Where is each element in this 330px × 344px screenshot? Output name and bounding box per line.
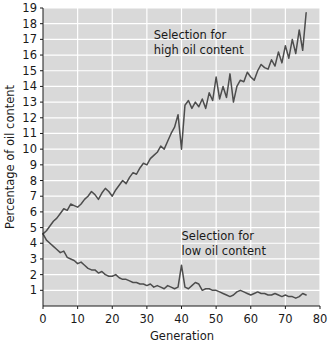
oil-content-selection-chart: 12345678910111213141516171819 0102030405… bbox=[0, 0, 330, 344]
annotation-line-2: low oil content bbox=[182, 244, 267, 258]
y-tick-label: 18 bbox=[22, 17, 37, 31]
annotation-line-1: Selection for bbox=[182, 229, 255, 243]
y-tick-label: 11 bbox=[22, 126, 37, 140]
x-tick-label: 80 bbox=[313, 312, 328, 326]
annotation-line-1: Selection for bbox=[154, 28, 227, 42]
y-tick-label: 4 bbox=[30, 236, 37, 250]
x-axis-title: Generation bbox=[150, 329, 214, 343]
y-tick-label: 6 bbox=[30, 205, 37, 219]
y-tick-label: 1 bbox=[30, 283, 37, 297]
y-tick-label: 7 bbox=[30, 189, 37, 203]
y-tick-label: 15 bbox=[22, 64, 37, 78]
x-tick-label: 60 bbox=[243, 312, 258, 326]
chart-canvas: 12345678910111213141516171819 0102030405… bbox=[0, 0, 330, 344]
y-tick-label: 8 bbox=[30, 174, 37, 188]
x-tick-label: 30 bbox=[140, 312, 155, 326]
x-tick-label: 70 bbox=[278, 312, 293, 326]
x-tick-label: 40 bbox=[174, 312, 189, 326]
annotation-line-2: high oil content bbox=[154, 43, 244, 57]
y-tick-label: 10 bbox=[22, 142, 37, 156]
y-tick-label: 5 bbox=[30, 221, 37, 235]
x-tick-label: 0 bbox=[39, 312, 46, 326]
y-tick-label: 3 bbox=[30, 252, 37, 266]
y-tick-label: 17 bbox=[22, 32, 37, 46]
x-tick-label: 50 bbox=[209, 312, 224, 326]
y-tick-label: 13 bbox=[22, 95, 37, 109]
y-tick-label: 16 bbox=[22, 48, 37, 62]
y-axis-title: Percentage of oil content bbox=[3, 84, 17, 229]
x-tick-label: 20 bbox=[105, 312, 120, 326]
y-tick-label: 9 bbox=[30, 158, 37, 172]
x-tick-label: 10 bbox=[70, 312, 85, 326]
y-tick-label: 19 bbox=[22, 1, 37, 15]
y-tick-label: 2 bbox=[30, 268, 37, 282]
y-tick-label: 12 bbox=[22, 111, 37, 125]
y-tick-label: 14 bbox=[22, 79, 37, 93]
low-series-annotation: Selection forlow oil content bbox=[182, 229, 267, 258]
